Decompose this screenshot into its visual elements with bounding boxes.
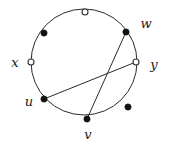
vertex-marker-open-x [28, 59, 34, 65]
vertex-label-w: w [140, 17, 151, 30]
chord-group [44, 32, 136, 119]
vertex-marker-open-y [133, 59, 139, 65]
vertex-marker-filled-v [84, 116, 90, 122]
vertex-marker-filled-lower-right [125, 104, 131, 110]
chord-v-w [87, 32, 126, 119]
vertex-label-y: y [150, 58, 157, 71]
vertex-label-v: v [84, 128, 91, 141]
vertex-label-u: u [25, 95, 33, 108]
vertex-marker-filled-upper-left [41, 30, 47, 36]
vertex-marker-open-top [82, 9, 88, 15]
chord-u-y [44, 62, 136, 99]
vertex-label-x: x [11, 56, 18, 69]
vertex-marker-filled-u [41, 96, 47, 102]
vertex-marker-filled-w [123, 29, 129, 35]
graph-figure: xuvyw [0, 0, 174, 145]
